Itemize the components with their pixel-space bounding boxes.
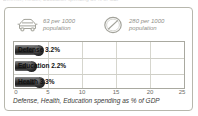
car-icon: [15, 14, 39, 36]
x-tick-5: 5: [46, 89, 49, 95]
x-tick-25: 25: [179, 89, 186, 95]
row-divider-2: [14, 74, 184, 75]
gridline-10: [82, 42, 83, 88]
stat-cars-line2: population: [43, 25, 75, 33]
chart-caption: Defense, Health, Education spending as %…: [13, 97, 191, 104]
bar-label-defense: Defense 3.2%: [18, 45, 60, 55]
cut-off-heading-strip: Defense, Health, Education spending as %…: [0, 0, 198, 7]
stat-telephones-line1: 280 per 1000: [129, 18, 164, 24]
cut-off-heading-text: Defense, Health, Education spending as %…: [3, 0, 121, 2]
gridline-15: [116, 42, 117, 88]
infographic-panel: 63 per 1000 population 280 per 1000 popu…: [4, 7, 193, 111]
x-tick-15: 15: [113, 89, 120, 95]
statistics-row: 63 per 1000 population 280 per 1000 popu…: [5, 11, 192, 41]
bar-label-health: Health 3.3%: [18, 77, 55, 87]
stat-telephones: 280 per 1000 population: [101, 11, 164, 39]
gridline-20: [150, 42, 151, 88]
stat-cars-line1: 63 per 1000: [43, 18, 75, 24]
x-tick-10: 10: [79, 89, 86, 95]
stat-telephones-value: 280 per 1000 population: [129, 18, 164, 33]
x-tick-0: 0: [14, 89, 17, 95]
stat-cars-value: 63 per 1000 population: [43, 18, 75, 33]
bar-chart-plot-area: Defense 3.2% Education 2.2% Health 3.3%: [13, 41, 185, 89]
row-divider-1: [14, 58, 184, 59]
stat-telephones-line2: population: [129, 25, 164, 33]
telephone-icon: [101, 14, 125, 36]
x-tick-20: 20: [147, 89, 154, 95]
stat-cars: 63 per 1000 population: [15, 11, 75, 39]
bar-label-education: Education 2.2%: [18, 61, 66, 71]
